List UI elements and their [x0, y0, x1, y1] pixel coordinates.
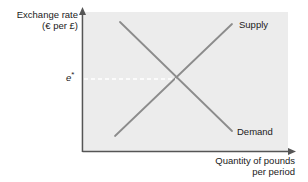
- y-axis-title: Exchange rate (€ per £): [0, 9, 78, 31]
- x-axis-title-line2: per period: [175, 166, 295, 177]
- demand-curve-label: Demand: [237, 126, 273, 137]
- equilibrium-price-label: e*: [66, 72, 74, 83]
- x-axis-title: Quantity of pounds per period: [175, 155, 295, 177]
- equilibrium-price-star: *: [71, 70, 74, 79]
- y-axis-title-line1: Exchange rate: [17, 9, 78, 20]
- x-axis-title-line1: Quantity of pounds: [215, 155, 295, 166]
- y-axis-title-line2: (€ per £): [0, 20, 78, 31]
- y-axis-arrowhead-icon: [79, 7, 86, 15]
- x-axis-arrowhead-icon: [288, 148, 296, 155]
- exchange-rate-supply-demand-figure: Exchange rate (€ per £) e* Supply Demand…: [0, 0, 308, 182]
- supply-curve-label: Supply: [239, 19, 268, 30]
